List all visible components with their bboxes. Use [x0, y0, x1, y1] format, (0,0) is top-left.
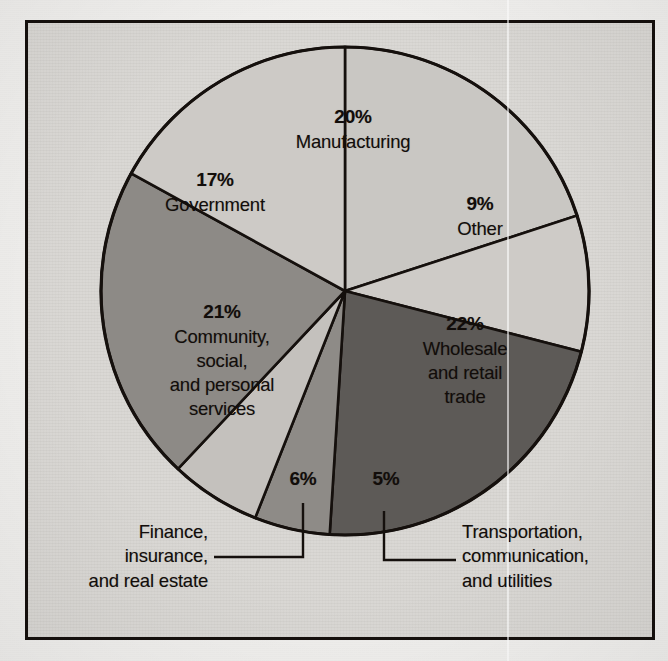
- slice-label-wholesale: 22% Wholesale and retail trade: [385, 312, 545, 409]
- slice-name-wholesale-line-2: and retail: [385, 361, 545, 385]
- slice-name-other: Other: [425, 217, 535, 241]
- callout-label-transportation: Transportation, communication, and utili…: [462, 520, 642, 593]
- slice-name-community-line-2: social,: [128, 349, 316, 373]
- slice-percent-transportation: 5%: [349, 467, 423, 492]
- slice-label-community: 21% Community, social, and personal serv…: [128, 300, 316, 421]
- slice-percent-other: 9%: [425, 192, 535, 217]
- slice-name-community-line-3: and personal: [128, 373, 316, 397]
- callout-label-finance: Finance, insurance, and real estate: [40, 520, 208, 593]
- slice-percent-manufacturing: 20%: [268, 105, 438, 130]
- scanned-page-background: 20% Manufacturing 9% Other 17% Governmen…: [0, 0, 668, 661]
- callout-finance-line-1: Finance,: [40, 520, 208, 544]
- slice-name-wholesale-line-1: Wholesale: [385, 337, 545, 361]
- slice-name-manufacturing: Manufacturing: [268, 130, 438, 154]
- slice-percent-finance: 6%: [266, 467, 340, 492]
- callout-finance-line-2: insurance,: [40, 544, 208, 568]
- slice-label-manufacturing: 20% Manufacturing: [268, 105, 438, 154]
- slice-name-community-line-1: Community,: [128, 325, 316, 349]
- slice-name-government: Government: [130, 193, 300, 217]
- callout-finance-line-3: and real estate: [40, 569, 208, 593]
- slice-percent-government: 17%: [130, 168, 300, 193]
- slice-percent-wholesale: 22%: [385, 312, 545, 337]
- slice-name-wholesale-line-3: trade: [385, 385, 545, 409]
- slice-percent-community: 21%: [128, 300, 316, 325]
- slice-label-other: 9% Other: [425, 192, 535, 241]
- slice-name-community-line-4: services: [128, 397, 316, 421]
- callout-transportation-line-1: Transportation,: [462, 520, 642, 544]
- callout-transportation-line-3: and utilities: [462, 569, 642, 593]
- callout-transportation-line-2: communication,: [462, 544, 642, 568]
- slice-label-government: 17% Government: [130, 168, 300, 217]
